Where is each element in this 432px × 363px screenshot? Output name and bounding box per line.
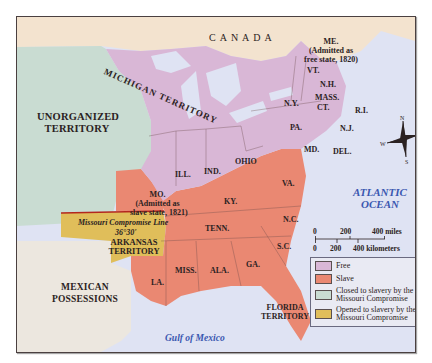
label-line: MEXICAN: [45, 281, 125, 293]
map-legend: Free Slave Closed to slavery by the Miss…: [310, 257, 416, 327]
scale-miles-0: 0: [313, 227, 317, 236]
legend-label: Free: [336, 262, 350, 270]
label-atlantic-ocean: ATLANTIC OCEAN: [350, 186, 410, 210]
label-line: MO.: [130, 190, 185, 199]
label-line: ME.: [296, 37, 366, 46]
label-mexican-possessions: MEXICAN POSSESSIONS: [45, 281, 125, 305]
label-line: TERRITORY: [260, 312, 310, 321]
label-alabama: ALA.: [210, 266, 229, 275]
label-north-carolina: N.C.: [283, 215, 299, 224]
label-new-hampshire: N.H.: [320, 80, 336, 89]
legend-label: Opened to slavery by the Missouri Compro…: [336, 306, 416, 322]
label-line: slave state, 1821): [130, 208, 185, 217]
label-tennessee: TENN.: [205, 224, 229, 233]
swatch-closed: [315, 290, 332, 300]
label-georgia: GA.: [246, 260, 260, 269]
compass-rose-icon: N S E W: [379, 113, 416, 165]
label-florida-territory: FLORIDA TERRITORY: [260, 303, 310, 321]
label-illinois: ILL.: [175, 170, 191, 179]
label-line: TERRITORY: [37, 123, 117, 135]
label-ohio: OHIO: [235, 157, 257, 166]
map-frame: CANADA UNORGANIZED TERRITORY MICHIGAN TE…: [16, 16, 416, 353]
label-arkansas-territory: ARKANSAS TERRITORY: [99, 238, 169, 256]
swatch-slave: [315, 274, 332, 284]
label-vermont: VT.: [307, 66, 320, 75]
label-unorganized-territory: UNORGANIZED TERRITORY: [37, 111, 117, 135]
label-missouri: MO. (Admitted as slave state, 1821): [130, 190, 185, 217]
scale-km-200: 200: [330, 244, 341, 253]
label-line: free state, 1820): [296, 55, 366, 64]
label-connecticut: CT.: [317, 103, 330, 112]
svg-text:N: N: [400, 115, 405, 121]
scale-ruler: [315, 236, 387, 244]
label-new-jersey: N.J.: [340, 124, 354, 133]
legend-item-slave: Slave: [315, 274, 416, 284]
swatch-free: [315, 261, 332, 271]
label-maine: ME. (Admitted as free state, 1820): [296, 37, 366, 64]
scale-km-400: 400 kilometers: [353, 244, 400, 253]
legend-label: Closed to slavery by the Missouri Compro…: [336, 287, 416, 303]
label-line: POSSESSIONS: [45, 293, 125, 305]
label-line: (Admitted as: [296, 46, 366, 55]
label-line: UNORGANIZED: [37, 111, 117, 123]
scale-miles-200: 200: [340, 227, 351, 236]
legend-item-free: Free: [315, 261, 416, 271]
label-missouri-compromise-line: Missouri Compromise Line: [78, 218, 168, 227]
svg-text:W: W: [380, 141, 386, 147]
label-mississippi: MISS.: [175, 266, 197, 275]
label-new-york: N.Y.: [284, 99, 299, 108]
label-rhode-island: R.I.: [355, 106, 368, 115]
label-line: TERRITORY: [99, 247, 169, 256]
label-virginia: VA.: [282, 179, 295, 188]
label-indiana: IND.: [204, 167, 221, 176]
legend-label: Slave: [336, 275, 354, 283]
scale-miles-400: 400 miles: [372, 227, 402, 236]
label-massachusetts: MASS.: [315, 93, 339, 102]
legend-item-opened: Opened to slavery by the Missouri Compro…: [315, 306, 416, 322]
label-kentucky: KY.: [224, 197, 237, 206]
label-line: (Admitted as: [130, 199, 185, 208]
label-line: OCEAN: [350, 198, 410, 210]
label-latitude-36-30: 36°30': [115, 228, 136, 237]
label-delaware: DEL.: [333, 147, 351, 156]
label-line: FLORIDA: [260, 303, 310, 312]
label-pennsylvania: PA.: [290, 123, 302, 132]
label-maryland: MD.: [304, 145, 319, 154]
scale-bar: 0 200 400 miles 0 200 400 kilometers: [313, 227, 416, 253]
label-louisiana: LA.: [151, 278, 164, 287]
label-line: ATLANTIC: [350, 186, 410, 198]
svg-text:S: S: [405, 159, 408, 165]
swatch-opened: [315, 309, 332, 319]
label-canada: CANADA: [209, 33, 276, 42]
label-south-carolina: S.C.: [277, 242, 291, 251]
label-gulf-of-mexico: Gulf of Mexico: [165, 334, 225, 343]
scale-km-0: 0: [313, 244, 317, 253]
legend-item-closed: Closed to slavery by the Missouri Compro…: [315, 287, 416, 303]
